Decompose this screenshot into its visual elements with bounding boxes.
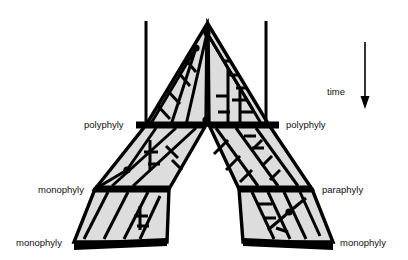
node-apex-2 [192, 44, 199, 51]
label-polyphyly-left: polyphyly [84, 119, 124, 130]
figure-canvas: time polyphyly polyphyly monophyly parap… [0, 0, 408, 260]
label-monophyly-bottom-left: monophyly [16, 237, 62, 248]
node-left-mid [123, 166, 130, 173]
bar-polyphyly-left [136, 122, 206, 129]
node-apex-1 [203, 29, 210, 36]
label-polyphyly-right: polyphyly [286, 119, 326, 130]
label-paraphyly-right: paraphyly [322, 184, 363, 195]
label-monophyly-bottom-right: monophyly [340, 237, 386, 248]
node-right-low [285, 208, 292, 215]
time-label: time [327, 86, 345, 97]
bar-polyphyly-right [209, 122, 279, 129]
bar-paraphyly [239, 186, 312, 193]
phylogeny-diagram: time polyphyly polyphyly monophyly parap… [0, 0, 408, 260]
label-monophyly-mid-left: monophyly [38, 184, 84, 195]
bar-monophyly-mid [95, 186, 169, 193]
